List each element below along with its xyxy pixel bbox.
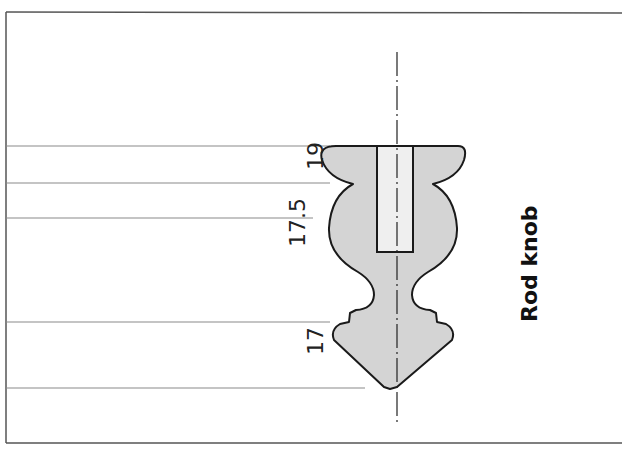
dimension-label-19: 19 xyxy=(303,142,328,170)
dimension-label-17: 17 xyxy=(303,327,328,355)
dimension-label-17-5: 17.5 xyxy=(285,198,310,247)
bore-hole xyxy=(377,146,413,252)
drawing-title: Rod knob xyxy=(517,205,542,322)
technical-drawing: 19 17.5 17 Rod knob xyxy=(0,0,622,451)
